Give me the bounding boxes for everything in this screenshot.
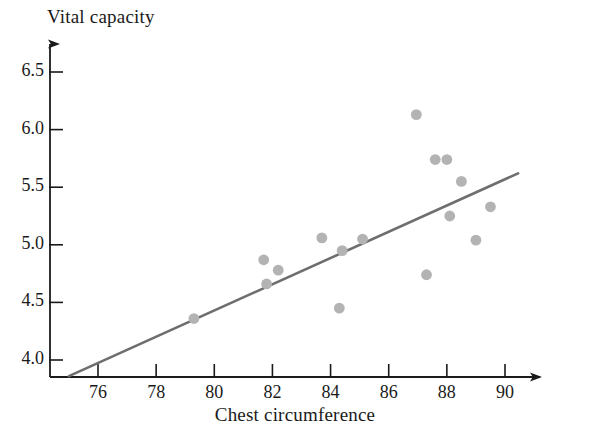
data-point bbox=[430, 154, 441, 165]
data-point bbox=[421, 269, 432, 280]
x-tick-label: 90 bbox=[485, 382, 525, 403]
data-point bbox=[485, 201, 496, 212]
data-point bbox=[334, 303, 345, 314]
y-tick-label: 4.5 bbox=[0, 290, 44, 311]
data-point bbox=[261, 279, 272, 290]
y-tick-label: 5.0 bbox=[0, 233, 44, 254]
y-tick-label: 4.0 bbox=[0, 348, 44, 369]
y-axis-title: Vital capacity bbox=[47, 6, 155, 28]
data-point bbox=[411, 109, 422, 120]
data-point bbox=[456, 176, 467, 187]
axis-lines bbox=[50, 44, 540, 377]
data-point bbox=[273, 265, 284, 276]
data-point bbox=[357, 234, 368, 245]
data-point-group bbox=[189, 109, 496, 324]
y-tick-label: 6.5 bbox=[0, 60, 44, 81]
regression-trend-line bbox=[69, 173, 518, 376]
x-tick-label: 76 bbox=[78, 382, 118, 403]
data-point bbox=[441, 154, 452, 165]
x-axis-ticks bbox=[98, 364, 505, 378]
data-point bbox=[189, 313, 200, 324]
x-tick-label: 88 bbox=[427, 382, 467, 403]
x-tick-label: 80 bbox=[194, 382, 234, 403]
data-point bbox=[316, 232, 327, 243]
x-axis-title: Chest circumference bbox=[0, 404, 590, 426]
data-point bbox=[337, 245, 348, 256]
data-point bbox=[471, 235, 482, 246]
data-point bbox=[258, 254, 269, 265]
x-tick-label: 86 bbox=[369, 382, 409, 403]
scatter-plot-figure: Vital capacity Chest circumference 4.04.… bbox=[0, 0, 590, 435]
y-tick-label: 5.5 bbox=[0, 175, 44, 196]
plot-canvas bbox=[0, 0, 590, 435]
y-axis-ticks bbox=[49, 72, 63, 360]
x-tick-label: 84 bbox=[311, 382, 351, 403]
x-tick-label: 82 bbox=[252, 382, 292, 403]
y-tick-label: 6.0 bbox=[0, 118, 44, 139]
x-tick-label: 78 bbox=[136, 382, 176, 403]
data-point bbox=[444, 211, 455, 222]
